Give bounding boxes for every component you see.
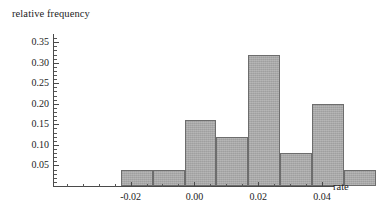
y-axis-minor-tick bbox=[54, 149, 57, 150]
y-axis-tick-label: 0.25 bbox=[32, 77, 50, 88]
x-axis-minor-tick bbox=[115, 184, 116, 187]
y-axis-minor-tick bbox=[54, 137, 57, 138]
y-axis-minor-tick bbox=[54, 161, 57, 162]
y-axis-minor-tick bbox=[54, 67, 57, 68]
x-axis-tick bbox=[131, 182, 132, 187]
x-axis-minor-tick bbox=[306, 184, 307, 187]
y-axis-minor-tick bbox=[54, 112, 57, 113]
y-axis-tick-label: 0.20 bbox=[32, 98, 50, 109]
x-axis-minor-tick bbox=[242, 184, 243, 187]
x-axis-tick-label: 0.00 bbox=[186, 191, 204, 202]
x-axis-tick-label: 0.04 bbox=[313, 191, 331, 202]
plot-area bbox=[54, 35, 330, 186]
y-axis-tick-label: 0.05 bbox=[32, 159, 50, 170]
y-axis-tick-label: 0.15 bbox=[32, 118, 50, 129]
x-axis-tick-label: 0.02 bbox=[249, 191, 267, 202]
x-axis-minor-tick bbox=[99, 184, 100, 187]
histogram-bar bbox=[248, 55, 280, 186]
histogram-bar bbox=[185, 120, 217, 186]
x-axis-minor-tick bbox=[147, 184, 148, 187]
y-axis-minor-tick bbox=[54, 116, 57, 117]
x-axis-minor-tick bbox=[210, 184, 211, 187]
y-axis-minor-tick bbox=[54, 141, 57, 142]
y-axis-minor-tick bbox=[54, 100, 57, 101]
y-axis-tick-label: 0.30 bbox=[32, 57, 50, 68]
x-axis-tick bbox=[194, 182, 195, 187]
x-axis-minor-tick bbox=[162, 184, 163, 187]
y-axis-minor-tick bbox=[54, 91, 57, 92]
y-axis-minor-tick bbox=[54, 128, 57, 129]
x-axis-minor-tick bbox=[274, 184, 275, 187]
y-axis-tick-label: 0.35 bbox=[32, 36, 50, 47]
x-axis-tick bbox=[322, 182, 323, 187]
x-axis-minor-tick bbox=[290, 184, 291, 187]
x-axis-minor-tick bbox=[67, 184, 68, 187]
y-axis-minor-tick bbox=[54, 79, 57, 80]
x-axis-tick-label: -0.02 bbox=[120, 191, 141, 202]
y-axis-tick bbox=[54, 63, 59, 64]
y-axis-minor-tick bbox=[54, 55, 57, 56]
y-axis-minor-tick bbox=[54, 170, 57, 171]
x-axis-tick bbox=[258, 182, 259, 187]
histogram-bar bbox=[312, 104, 344, 186]
y-axis-minor-tick bbox=[54, 174, 57, 175]
y-axis-minor-tick bbox=[54, 46, 57, 47]
y-axis-tick bbox=[54, 145, 59, 146]
y-axis-tick bbox=[54, 124, 59, 125]
y-axis-tick bbox=[54, 104, 59, 105]
y-axis-minor-tick bbox=[54, 157, 57, 158]
y-axis-minor-tick bbox=[54, 182, 57, 183]
y-axis-tick bbox=[54, 83, 59, 84]
x-axis-label: rate bbox=[333, 181, 349, 192]
histogram-bar bbox=[216, 137, 248, 186]
y-axis-tick bbox=[54, 42, 59, 43]
y-axis-minor-tick bbox=[54, 75, 57, 76]
x-axis-minor-tick bbox=[83, 184, 84, 187]
y-axis-tick bbox=[54, 165, 59, 166]
y-axis-minor-tick bbox=[54, 133, 57, 134]
y-axis-tick-label: 0.10 bbox=[32, 139, 50, 150]
y-axis-minor-tick bbox=[54, 178, 57, 179]
y-axis-minor-tick bbox=[54, 50, 57, 51]
y-axis-label: relative frequency bbox=[12, 8, 90, 19]
y-axis-minor-tick bbox=[54, 96, 57, 97]
x-axis-minor-tick bbox=[178, 184, 179, 187]
y-axis-minor-tick bbox=[54, 120, 57, 121]
y-axis-minor-tick bbox=[54, 153, 57, 154]
x-axis-minor-tick bbox=[226, 184, 227, 187]
histogram-bar bbox=[121, 170, 153, 186]
y-axis-minor-tick bbox=[54, 108, 57, 109]
y-axis-minor-tick bbox=[54, 59, 57, 60]
histogram-bar bbox=[153, 170, 185, 186]
histogram-bar bbox=[280, 153, 312, 186]
y-axis-minor-tick bbox=[54, 38, 57, 39]
y-axis-minor-tick bbox=[54, 71, 57, 72]
y-axis-minor-tick bbox=[54, 87, 57, 88]
